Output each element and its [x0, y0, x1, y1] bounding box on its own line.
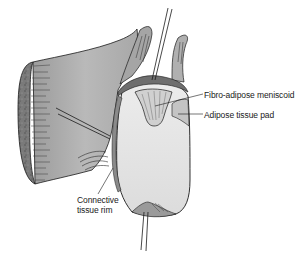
capsule-cut-edge: [18, 62, 35, 184]
label-connective-tissue-rim: Connective tissue rim: [77, 195, 137, 215]
anatomical-illustration: Fibro-adipose meniscoid Adipose tissue p…: [0, 0, 303, 256]
label-rim-line1: Connective: [77, 195, 137, 205]
zygapophysial-joint-drawing: [0, 0, 303, 256]
label-adipose-tissue-pad: Adipose tissue pad: [204, 110, 274, 120]
label-rim-line2: tissue rim: [77, 205, 137, 215]
label-fibro-adipose-meniscoid: Fibro-adipose meniscoid: [204, 90, 294, 100]
